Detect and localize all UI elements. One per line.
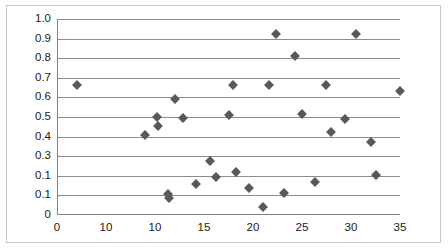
plot-area: 1.00.90.80.70.60.50.40.30.10.10 01010152… xyxy=(57,19,400,215)
x-axis-tick-label: 10 xyxy=(149,222,162,234)
gridline xyxy=(57,39,400,40)
x-axis-tick-label: 0 xyxy=(54,222,60,234)
data-point-marker xyxy=(366,137,376,147)
data-point-marker xyxy=(290,51,300,61)
y-axis-tick-label: 0.1 xyxy=(35,190,51,202)
y-axis-tick-label: 0.1 xyxy=(35,170,51,182)
data-point-marker xyxy=(258,202,268,212)
data-point-marker xyxy=(211,172,221,182)
data-point-marker xyxy=(191,179,201,189)
data-point-marker xyxy=(326,127,336,137)
data-point-marker xyxy=(340,114,350,124)
gridline xyxy=(57,78,400,79)
x-axis-tick-label: 10 xyxy=(100,222,113,234)
data-point-marker xyxy=(153,121,163,131)
y-axis-tick-label: 0.8 xyxy=(35,52,51,64)
y-axis-tick-label: 0 xyxy=(45,209,51,221)
gridline xyxy=(57,19,400,20)
y-axis-tick-label: 0.6 xyxy=(35,92,51,104)
data-point-marker xyxy=(395,86,405,96)
y-axis-tick-label: 0.7 xyxy=(35,72,51,84)
data-point-marker xyxy=(140,130,150,140)
x-axis-tick-label: 20 xyxy=(247,222,260,234)
x-axis-tick-label: 35 xyxy=(394,222,407,234)
y-axis-tick-label: 1.0 xyxy=(35,13,51,25)
data-point-marker xyxy=(271,29,281,39)
y-axis-tick-label: 0.4 xyxy=(35,131,51,143)
data-point-marker xyxy=(170,94,180,104)
data-point-marker xyxy=(244,183,254,193)
data-point-marker xyxy=(372,170,382,180)
gridline xyxy=(57,97,400,98)
y-axis-tick-label: 0.3 xyxy=(35,150,51,162)
data-point-marker xyxy=(351,29,361,39)
data-point-marker xyxy=(228,80,238,90)
gridline xyxy=(57,58,400,59)
data-point-marker xyxy=(279,188,289,198)
data-point-marker xyxy=(264,80,274,90)
data-point-marker xyxy=(72,80,82,90)
data-point-marker xyxy=(224,110,234,120)
scatter-plot-figure: 1.00.90.80.70.60.50.40.30.10.10 01010152… xyxy=(0,0,448,250)
x-axis-tick-label: 30 xyxy=(345,222,358,234)
data-point-marker xyxy=(310,177,320,187)
gridline xyxy=(57,156,400,157)
data-point-marker xyxy=(178,113,188,123)
y-axis-tick-label: 0.9 xyxy=(35,33,51,45)
data-point-marker xyxy=(321,80,331,90)
data-point-marker xyxy=(205,156,215,166)
x-axis-tick-label: 25 xyxy=(296,222,309,234)
gridline xyxy=(57,176,400,177)
gridline xyxy=(57,137,400,138)
x-axis-tick-label: 15 xyxy=(198,222,211,234)
y-axis-tick-label: 0.5 xyxy=(35,111,51,123)
gridline xyxy=(57,195,400,196)
